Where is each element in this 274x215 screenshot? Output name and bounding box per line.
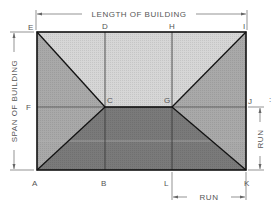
point-E: E bbox=[28, 23, 33, 32]
length-label: LENGTH OF BUILDING bbox=[92, 10, 187, 19]
point-K: K bbox=[244, 179, 250, 188]
tick-mark: : bbox=[269, 95, 271, 104]
point-A: A bbox=[32, 179, 38, 188]
point-C: C bbox=[107, 96, 113, 105]
point-G: G bbox=[164, 96, 170, 105]
point-H: H bbox=[169, 22, 175, 31]
run-right-label: RUN bbox=[256, 130, 265, 149]
span-label: SPAN OF BUILDING bbox=[10, 60, 19, 143]
point-F: F bbox=[26, 103, 31, 112]
point-I: I bbox=[243, 22, 245, 31]
run-bottom-label: RUN bbox=[200, 193, 219, 202]
point-D: D bbox=[102, 22, 108, 31]
point-L: L bbox=[164, 179, 169, 188]
hip-roof-diagram: LENGTH OF BUILDING SPAN OF BUILDING RUN … bbox=[0, 0, 274, 215]
point-J: J bbox=[248, 97, 252, 106]
point-B: B bbox=[101, 179, 106, 188]
